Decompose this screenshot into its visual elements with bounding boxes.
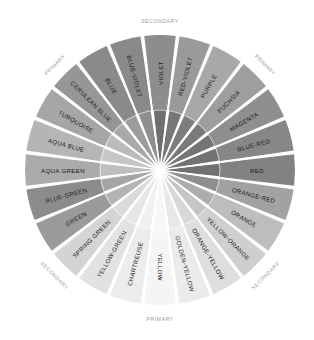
color-wheel-figure: VIOLETRED-VIOLETPURPLEFUCHSIAMAGENTABLUE… <box>0 0 314 340</box>
sector-label: AQUA GREEN <box>41 167 85 174</box>
sector-label: YELLOW <box>157 253 164 281</box>
ring-label-top: SECONDARY <box>141 18 178 24</box>
sector-label: RED <box>250 167 264 174</box>
ring-label-bottom: PRIMARY <box>146 316 173 322</box>
sector-label: VIOLET <box>157 61 164 85</box>
color-wheel-canvas: VIOLETRED-VIOLETPURPLEFUCHSIAMAGENTABLUE… <box>0 0 314 340</box>
